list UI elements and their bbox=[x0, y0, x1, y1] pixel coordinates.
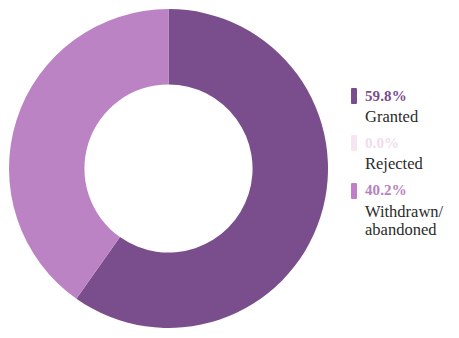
legend-swatch-icon-granted bbox=[351, 88, 357, 104]
chart-legend: 59.8% Granted 0.0% Rejected 40.2% Withdr… bbox=[351, 88, 457, 249]
donut-chart bbox=[9, 9, 328, 328]
legend-label-line: abandoned bbox=[365, 221, 457, 239]
legend-value-withdrawn-abandoned: 40.2% bbox=[365, 183, 407, 198]
legend-label-line: Granted bbox=[365, 108, 457, 126]
legend-value-row: 40.2% bbox=[351, 183, 457, 199]
legend-value-row: 59.8% bbox=[351, 88, 457, 104]
legend-entry-granted[interactable]: 59.8% Granted bbox=[351, 88, 457, 126]
legend-label-granted: Granted bbox=[365, 108, 457, 126]
legend-entry-withdrawn-abandoned[interactable]: 40.2% Withdrawn/ abandoned bbox=[351, 183, 457, 240]
legend-swatch-icon-rejected bbox=[351, 135, 357, 151]
legend-swatch-icon-withdrawn-abandoned bbox=[351, 183, 357, 199]
legend-label-line: Withdrawn/ bbox=[365, 203, 457, 221]
donut-slices bbox=[9, 9, 328, 328]
chart-page: 59.8% Granted 0.0% Rejected 40.2% Withdr… bbox=[0, 0, 459, 338]
legend-value-row: 0.0% bbox=[351, 135, 457, 151]
legend-entry-rejected[interactable]: 0.0% Rejected bbox=[351, 135, 457, 173]
donut-chart-svg bbox=[9, 9, 328, 328]
legend-value-rejected: 0.0% bbox=[365, 136, 399, 151]
legend-label-withdrawn-abandoned: Withdrawn/ abandoned bbox=[365, 203, 457, 240]
legend-label-rejected: Rejected bbox=[365, 155, 457, 173]
legend-value-granted: 59.8% bbox=[365, 89, 407, 104]
legend-label-line: Rejected bbox=[365, 155, 457, 173]
